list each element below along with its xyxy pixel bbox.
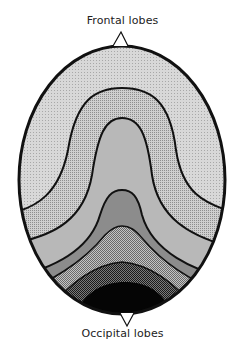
frontal-pointer-icon	[113, 32, 128, 46]
occipital-pointer-icon	[120, 313, 134, 326]
brain-contour-diagram	[0, 0, 245, 351]
